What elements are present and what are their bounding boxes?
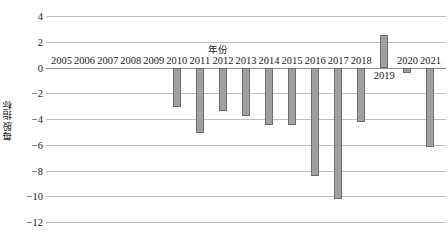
bar bbox=[173, 68, 181, 108]
bar-series bbox=[46, 0, 446, 240]
bar bbox=[380, 35, 388, 67]
bar-chart: 每股指标 420−2−4−6−8−10−12 20052006200720082… bbox=[0, 0, 448, 240]
y-axis-tick-label: −12 bbox=[2, 217, 46, 228]
x-axis-tick-label: 2017 bbox=[328, 55, 349, 66]
x-axis-tick-label: 2015 bbox=[282, 55, 303, 66]
bar bbox=[357, 68, 365, 122]
x-axis-tick-label: 2018 bbox=[351, 55, 372, 66]
x-axis-tick-label: 2005 bbox=[51, 55, 72, 66]
x-axis-tick-label: 2012 bbox=[212, 55, 233, 66]
x-axis-tick-label: 2007 bbox=[97, 55, 118, 66]
bar bbox=[403, 68, 411, 73]
x-axis-tick-label: 2013 bbox=[236, 55, 257, 66]
y-axis-tick-label: −4 bbox=[2, 114, 46, 125]
bar bbox=[311, 68, 319, 176]
y-axis-tick-labels: 420−2−4−6−8−10−12 bbox=[0, 0, 46, 240]
plot-area: 2005200620072008200920102011201220132014… bbox=[46, 0, 446, 240]
x-axis-title: 年份 bbox=[208, 42, 228, 56]
x-axis-tick-label: 2008 bbox=[120, 55, 141, 66]
y-axis-tick-label: −10 bbox=[2, 191, 46, 202]
x-axis-tick-label: 2020 bbox=[397, 55, 418, 66]
x-axis-tick-label: 2011 bbox=[190, 55, 211, 66]
bar bbox=[242, 68, 250, 117]
y-axis-tick-label: −2 bbox=[2, 88, 46, 99]
bar bbox=[219, 68, 227, 112]
x-axis-tick-label: 2006 bbox=[74, 55, 95, 66]
bar bbox=[196, 68, 204, 134]
y-axis-tick-label: −6 bbox=[2, 139, 46, 150]
bar bbox=[334, 68, 342, 199]
x-axis-tick-label: 2016 bbox=[305, 55, 326, 66]
bar bbox=[426, 68, 434, 148]
bar bbox=[288, 68, 296, 126]
y-axis-tick-label: 2 bbox=[2, 36, 46, 47]
y-axis-tick-label: 0 bbox=[2, 62, 46, 73]
y-axis-tick-label: −8 bbox=[2, 165, 46, 176]
bar bbox=[265, 68, 273, 126]
x-axis-tick-label: 2019 bbox=[374, 70, 395, 81]
x-axis-tick-label: 2010 bbox=[166, 55, 187, 66]
x-axis-tick-label: 2021 bbox=[420, 55, 441, 66]
x-axis-tick-label: 2009 bbox=[143, 55, 164, 66]
y-axis-tick-label: 4 bbox=[2, 11, 46, 22]
x-axis-tick-label: 2014 bbox=[259, 55, 280, 66]
